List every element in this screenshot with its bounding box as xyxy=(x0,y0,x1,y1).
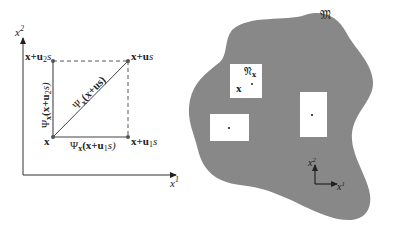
point-top-left xyxy=(51,59,55,63)
point-top-right xyxy=(126,59,130,63)
label-origin: x xyxy=(44,135,50,147)
figure-canvas: x2 x1 x x+u2s x+us x+u1s Ψx(x+u1s) xyxy=(0,0,394,233)
y-axis-label: x2 xyxy=(14,24,24,38)
label-bottom-right: x+u1s xyxy=(131,135,157,149)
manifold-label: 𝔐 xyxy=(320,8,331,22)
neighborhood-point xyxy=(251,83,253,85)
patch-left-point xyxy=(228,127,230,129)
left-diagram: x2 x1 x x+u2s x+us x+u1s Ψx(x+u1s) xyxy=(14,24,179,189)
point-origin xyxy=(51,135,55,139)
patch-right-point xyxy=(311,114,313,116)
x-axis-label: x1 xyxy=(169,175,179,189)
label-left-edge: Ψx(x+u2s) xyxy=(39,82,53,128)
point-bottom-right xyxy=(126,135,130,139)
label-top-right: x+us xyxy=(131,50,153,62)
point-label: x xyxy=(236,82,242,94)
label-bottom-edge: Ψx(x+u1s) xyxy=(70,139,116,153)
label-diagonal-edge: Ψx(x+us) xyxy=(70,73,110,113)
patch-right xyxy=(300,92,327,137)
label-top-left: x+u2s xyxy=(25,50,51,64)
right-diagram: 𝔐 𝔑x x x2 x1 xyxy=(189,8,373,220)
